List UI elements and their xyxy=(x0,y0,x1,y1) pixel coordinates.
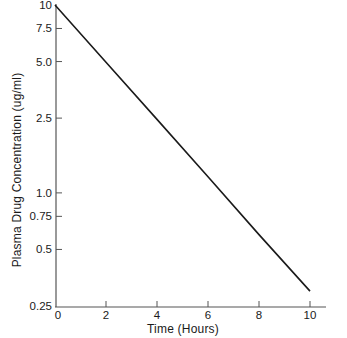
x-tick-label: 4 xyxy=(154,309,161,321)
y-axis: 107.55.02.51.00.750.50.25 xyxy=(30,0,62,312)
y-tick-label: 10 xyxy=(39,0,52,11)
y-tick-label: 7.5 xyxy=(36,22,52,34)
concentration-line xyxy=(55,5,310,291)
x-tick-label: 0 xyxy=(55,309,61,321)
y-tick-label: 0.25 xyxy=(30,300,52,312)
x-tick-label: 8 xyxy=(256,309,262,321)
x-axis-label: Time (Hours) xyxy=(147,322,219,336)
y-tick-label: 1.0 xyxy=(36,187,52,199)
x-tick-label: 6 xyxy=(205,309,211,321)
x-tick-label: 10 xyxy=(304,309,317,321)
y-tick-label: 5.0 xyxy=(36,56,52,68)
chart: 107.55.02.51.00.750.50.25 0246810 Time (… xyxy=(0,0,347,338)
y-tick-label: 0.5 xyxy=(36,243,52,255)
y-tick-label: 2.5 xyxy=(36,112,52,124)
x-tick-label: 2 xyxy=(103,309,109,321)
x-axis: 0246810 xyxy=(55,301,326,321)
y-axis-label: Plasma Drug Concentration (ug/ml) xyxy=(10,73,24,268)
y-tick-label: 0.75 xyxy=(30,210,52,222)
